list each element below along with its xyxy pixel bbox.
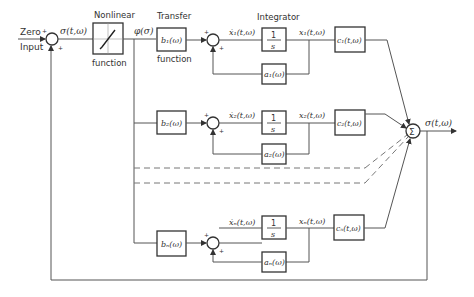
zero-input: Zero Input (18, 27, 45, 52)
svg-text:+: + (42, 27, 47, 34)
svg-text:a₂(ω): a₂(ω) (264, 150, 285, 159)
nonlinear-title: Nonlinear (94, 10, 135, 20)
state-row-2: b₂(ω) + + ẋ₂(t,ω) 1 s x₂(t,ω) a₂(ω) c₂(t… (157, 110, 406, 164)
svg-text:1: 1 (271, 31, 276, 40)
nonlinear-subtitle: function (92, 58, 127, 68)
svg-text:1: 1 (271, 219, 276, 228)
output-label: σ(t,ω) (425, 118, 452, 128)
svg-text:b₁(ω): b₁(ω) (161, 36, 182, 45)
svg-text:s: s (271, 42, 275, 51)
svg-text:1: 1 (271, 114, 276, 123)
svg-text:+: + (219, 127, 224, 134)
svg-text:s: s (271, 230, 275, 239)
integrator-title: Integrator (257, 12, 300, 22)
row1-summing-junction (207, 34, 219, 46)
svg-text:+: + (219, 247, 224, 254)
block-diagram: Zero Input + + σ(t,ω) Nonlinear function… (0, 0, 474, 297)
state-row-1: b₁(ω) + + ẋ₁(t,ω) 1 s x₁(t,ω) a₁(ω) c₁(t… (157, 27, 409, 124)
svg-text:ẋ₂(t,ω): ẋ₂(t,ω) (229, 111, 255, 120)
svg-text:+: + (219, 44, 224, 51)
svg-text:cₙ(t,ω): cₙ(t,ω) (336, 224, 361, 233)
svg-text:x₁(t,ω): x₁(t,ω) (299, 28, 325, 37)
input-label-line1: Zero (20, 27, 41, 37)
svg-text:x₂(t,ω): x₂(t,ω) (299, 111, 325, 120)
svg-text:+: + (204, 231, 209, 238)
transfer-subtitle: function (157, 54, 192, 64)
svg-text:b₂(ω): b₂(ω) (161, 119, 182, 128)
svg-text:+: + (204, 111, 209, 118)
input-label-line2: Input (20, 42, 44, 52)
svg-text:c₂(t,ω): c₂(t,ω) (337, 119, 362, 128)
svg-text:ẋ₁(t,ω): ẋ₁(t,ω) (229, 28, 255, 37)
phi-label: φ(σ) (134, 26, 154, 36)
svg-text:+: + (204, 28, 209, 35)
svg-text:a₁(ω): a₁(ω) (264, 70, 285, 79)
output-summation: Σ (406, 124, 420, 138)
feedback-path (51, 46, 427, 280)
rown-summing-junction (207, 237, 219, 249)
svg-text:c₁(t,ω): c₁(t,ω) (337, 36, 362, 45)
svg-text:s: s (271, 125, 275, 134)
sigma-label: σ(t,ω) (60, 26, 87, 36)
svg-text:xₙ(t,ω): xₙ(t,ω) (299, 217, 325, 226)
svg-text:+: + (58, 44, 63, 51)
svg-text:Σ: Σ (409, 127, 415, 137)
transfer-title: Transfer (156, 11, 192, 21)
row2-summing-junction (207, 117, 219, 129)
svg-text:aₙ(ω): aₙ(ω) (264, 258, 285, 267)
svg-text:ẋₙ(t,ω): ẋₙ(t,ω) (229, 218, 255, 227)
svg-text:bₙ(ω): bₙ(ω) (161, 240, 182, 249)
